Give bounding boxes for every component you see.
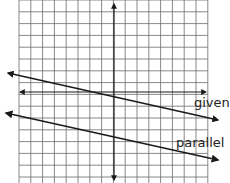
given-label: given	[194, 96, 230, 109]
coordinate-grid-diagram	[0, 0, 230, 183]
parallel-label: parallel	[176, 136, 224, 149]
